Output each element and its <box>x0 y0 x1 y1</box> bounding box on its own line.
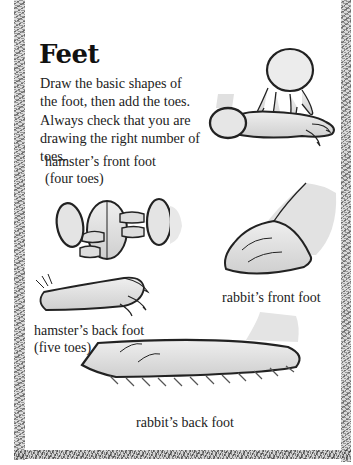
caption-line: hamster’s front foot <box>45 153 156 170</box>
rabbit-front-foot-drawing <box>225 183 336 274</box>
caption-line: rabbit’s back foot <box>136 414 234 431</box>
hamster-front-foot-drawing <box>53 199 182 259</box>
foot-illustrations <box>0 0 353 465</box>
hamster-leg-drawing <box>210 94 334 146</box>
caption-line: rabbit’s front foot <box>222 289 321 306</box>
caption-line: hamster’s back foot <box>34 322 144 339</box>
book-page: Feet Draw the basic shapes of the foot, … <box>0 0 353 465</box>
caption-subline: (five toes) <box>34 339 144 356</box>
rabbit-back-foot-caption: rabbit’s back foot <box>136 414 234 431</box>
hamster-back-foot-caption: hamster’s back foot (five toes) <box>34 322 144 356</box>
hamster-back-foot-drawing <box>36 274 148 316</box>
caption-subline: (four toes) <box>45 170 156 187</box>
rabbit-front-foot-caption: rabbit’s front foot <box>222 289 321 306</box>
hamster-front-foot-caption: hamster’s front foot (four toes) <box>45 153 156 187</box>
